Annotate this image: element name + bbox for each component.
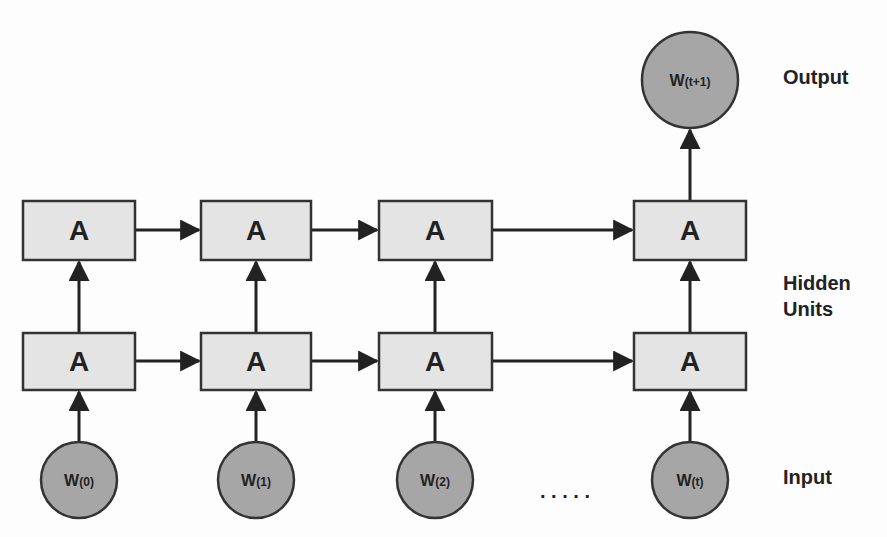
hidden-layer-1: A A A A	[23, 333, 746, 390]
hidden-unit-label: A	[425, 346, 445, 377]
ellipsis: . . . . .	[540, 480, 590, 502]
input-arrows	[79, 392, 690, 442]
hidden-unit-label: A	[69, 346, 89, 377]
hidden-unit-label: A	[246, 346, 266, 377]
input-node-label: W(1)	[241, 472, 271, 489]
output-layer: W(t+1)	[642, 32, 738, 128]
rnn-diagram: A A A A A A A A W(0) W(1)	[0, 0, 887, 537]
hidden-unit-label: A	[680, 215, 700, 246]
hidden-layer-label-2: Units	[783, 298, 833, 320]
hidden-layer-2: A A A A	[23, 201, 746, 260]
hidden-unit-label: A	[425, 215, 445, 246]
input-node-label: W(t)	[676, 472, 703, 489]
layer-arrows	[79, 262, 690, 333]
hidden-unit-label: A	[69, 215, 89, 246]
input-node-label: W(0)	[64, 472, 94, 489]
input-node-label: W(2)	[420, 472, 450, 489]
input-layer: W(0) W(1) W(2) W(t)	[41, 442, 728, 518]
output-node-label: W(t+1)	[670, 72, 711, 89]
hidden-unit-label: A	[246, 215, 266, 246]
output-layer-label: Output	[783, 66, 849, 88]
hidden-unit-label: A	[680, 346, 700, 377]
hidden-layer-label: Hidden	[783, 272, 851, 294]
input-layer-label: Input	[783, 466, 832, 488]
